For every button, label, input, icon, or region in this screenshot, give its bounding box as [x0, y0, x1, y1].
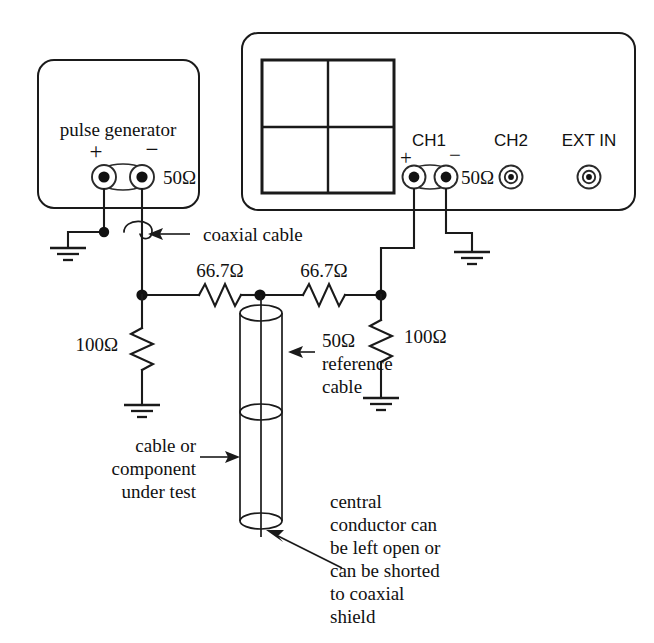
- central-conductor-line-6: shield: [330, 606, 376, 627]
- bnc-center-pin-minus: [136, 171, 147, 182]
- central-conductor-line-1: central: [330, 491, 382, 512]
- reference-cable-line-2: reference: [322, 353, 393, 374]
- pulse-generator-label: pulse generator: [60, 119, 177, 140]
- reference-cable-line-1: 50Ω: [322, 330, 355, 351]
- wiring-network: [68, 189, 472, 405]
- resistor-100-right-label: 100Ω: [404, 326, 447, 347]
- tdr-circuit-diagram: pulse generator + − 50Ω: [0, 0, 654, 643]
- bnc-center-pin-extin: [586, 174, 592, 180]
- oscilloscope-extin-label: EXT IN: [562, 131, 616, 150]
- crt-screen: [262, 60, 394, 193]
- coaxial-cable-label: coaxial cable: [203, 224, 303, 245]
- earth-ground-icon-pulse-generator: [50, 248, 86, 260]
- pulse-generator-instrument: pulse generator + − 50Ω: [38, 60, 199, 208]
- oscilloscope-ch1-minus-label: −: [449, 143, 461, 167]
- central-conductor-line-2: conductor can: [330, 514, 438, 535]
- central-conductor-line-3: be left open or: [330, 537, 441, 558]
- bnc-center-pin-ch2: [508, 174, 514, 180]
- coax-twist-icon: [124, 221, 152, 238]
- junction-dot-center: [254, 289, 265, 300]
- pulse-generator-impedance-label: 50Ω: [163, 167, 196, 188]
- oscilloscope-ch1-plus-label: +: [400, 146, 412, 170]
- oscilloscope-ch1-impedance-label: 50Ω: [461, 167, 494, 188]
- oscilloscope-instrument: CH1 + − 50Ω CH2 EXT IN: [242, 33, 635, 210]
- resistor-66-7-left-label: 66.7Ω: [196, 260, 243, 281]
- dut-line-2: component: [112, 458, 197, 479]
- dut-line-3: under test: [122, 481, 197, 502]
- central-conductor-line-4: can be shorted: [330, 560, 440, 581]
- earth-ground-icon-left-shunt: [124, 405, 160, 417]
- central-conductor-note: central conductor can be left open or ca…: [330, 491, 441, 627]
- reference-cable-line-3: cable: [322, 376, 362, 397]
- resistor-66-7-right-symbol: [303, 284, 345, 306]
- central-conductor-line-5: to coaxial: [330, 583, 404, 604]
- resistor-100-left-label: 100Ω: [75, 334, 118, 355]
- junction-dot-pg: [99, 227, 109, 237]
- resistor-66-7-right-label: 66.7Ω: [300, 260, 347, 281]
- pulse-generator-plus-label: +: [90, 139, 103, 164]
- earth-ground-icon-right-shunt: [363, 398, 399, 410]
- resistor-100-left-symbol: [131, 328, 153, 370]
- dut-line-1: cable or: [135, 435, 196, 456]
- pulse-generator-minus-label: −: [146, 137, 159, 162]
- device-under-test-label: cable or component under test: [112, 435, 197, 502]
- wire-pg-plus-to-ground: [68, 232, 104, 248]
- earth-ground-icon-oscilloscope: [454, 252, 490, 264]
- diagram-canvas: pulse generator + − 50Ω: [0, 0, 654, 643]
- oscilloscope-ch1-label: CH1: [412, 131, 446, 150]
- bnc-center-pin-ch1-minus: [441, 172, 452, 183]
- resistor-66-7-left-symbol: [199, 284, 241, 306]
- bnc-center-pin-plus: [98, 171, 109, 182]
- oscilloscope-extin-input[interactable]: [578, 166, 601, 189]
- central-conductor-arrow-head: [266, 530, 284, 542]
- oscilloscope-ch2-label: CH2: [494, 131, 528, 150]
- oscilloscope-ch2-input[interactable]: [500, 166, 523, 189]
- bnc-center-pin-ch1-plus: [409, 172, 420, 183]
- coaxial-cable-cylinder: [240, 295, 282, 537]
